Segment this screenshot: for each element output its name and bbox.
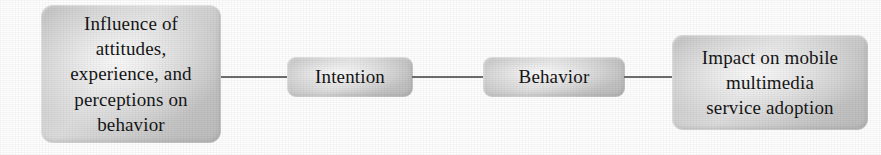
flow-node-intention: Intention: [287, 57, 413, 97]
flow-node-intention-label: Intention: [315, 64, 385, 89]
flow-node-behavior-label: Behavior: [519, 64, 590, 89]
connector-intention-to-behavior: [412, 76, 484, 78]
flow-node-outcome-label: Impact on mobile multimedia service adop…: [702, 45, 838, 120]
flow-node-antecedents-label: Influence of attitudes, experience, and …: [70, 11, 191, 136]
flow-node-antecedents: Influence of attitudes, experience, and …: [41, 5, 221, 143]
flow-diagram-canvas: Influence of attitudes, experience, and …: [0, 0, 881, 155]
connector-behavior-to-outcome: [624, 76, 673, 78]
flow-node-behavior: Behavior: [483, 57, 625, 97]
connector-antecedents-to-intention: [221, 76, 288, 78]
flow-node-outcome: Impact on mobile multimedia service adop…: [672, 35, 868, 130]
